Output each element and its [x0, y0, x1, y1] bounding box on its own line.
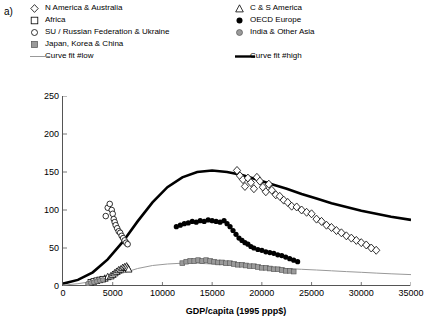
x-tick-label: 30000	[341, 289, 381, 297]
y-tick-label: 200	[33, 130, 59, 138]
open-square-icon	[30, 16, 39, 25]
legend-label: Curve fit #low	[45, 51, 93, 61]
legend-item-curve-fit-low: Curve fit #low	[30, 51, 235, 61]
legend-item-su-russian-federation-ukraine: SU / Russian Federation & Ukraine	[30, 27, 235, 37]
y-tick-label: 0	[33, 282, 59, 290]
x-tick-label: 0	[43, 289, 83, 297]
legend-item-curve-fit-high: Curve fit #high	[235, 51, 425, 61]
open-triangle-icon	[235, 4, 244, 13]
x-tick-label: 15000	[192, 289, 232, 297]
x-tick-label: 20000	[242, 289, 282, 297]
x-tick-label: 25000	[292, 289, 332, 297]
grey-square-icon	[30, 40, 39, 49]
legend-item-japan-korea-china: Japan, Korea & China	[30, 39, 235, 49]
legend-label: Japan, Korea & China	[45, 39, 123, 49]
x-tick-label: 35000	[391, 289, 431, 297]
y-tick-label: 100	[33, 206, 59, 214]
x-axis-label: GDP/capita (1995 ppp$)	[62, 306, 410, 316]
legend-item-oecd-europe: OECD Europe	[235, 15, 425, 25]
legend-label: Africa	[45, 15, 65, 25]
y-tick-label: 150	[33, 168, 59, 176]
series-oecd-europe	[174, 217, 301, 264]
legend-label: India & Other Asia	[250, 27, 314, 37]
plot-canvas	[63, 96, 411, 286]
legend-label: Curve fit #high	[250, 51, 302, 61]
legend-row: Africa OECD Europe	[30, 14, 430, 26]
x-tick-label: 5000	[93, 289, 133, 297]
open-circle-icon	[30, 28, 39, 37]
y-tick-label: 250	[33, 92, 59, 100]
legend-item-india-other-asia: India & Other Asia	[235, 27, 425, 37]
legend-label: SU / Russian Federation & Ukraine	[45, 27, 170, 37]
legend-item-c-s-america: C & S America	[235, 3, 425, 13]
legend-row: Japan, Korea & China	[30, 38, 430, 50]
grey-circle-icon	[235, 28, 244, 37]
chart-legend: N America & Australia C & S America Afri…	[30, 2, 430, 62]
thick-line-icon	[235, 52, 244, 61]
open-diamond-icon	[30, 4, 39, 13]
legend-label: OECD Europe	[250, 15, 301, 25]
thin-line-icon	[30, 52, 39, 61]
plot-area: 0500010000150002000025000300003500005010…	[62, 96, 410, 286]
legend-item-africa: Africa	[30, 15, 235, 25]
legend-label: N America & Australia	[45, 3, 122, 13]
legend-row: SU / Russian Federation & Ukraine India …	[30, 26, 430, 38]
filled-circle-icon	[235, 16, 244, 25]
series-su-russian-federation-ukraine	[103, 201, 130, 247]
legend-label: C & S America	[250, 3, 302, 13]
x-tick-label: 10000	[142, 289, 182, 297]
series-japan-korea-china	[180, 258, 296, 274]
y-tick-label: 50	[33, 244, 59, 252]
chart-figure: a) N America & Australia C & S America	[0, 0, 441, 332]
legend-row: Curve fit #low Curve fit #high	[30, 50, 430, 62]
panel-label: a)	[4, 6, 13, 17]
legend-item-n-america-australia: N America & Australia	[30, 3, 235, 13]
legend-row: N America & Australia C & S America	[30, 2, 430, 14]
